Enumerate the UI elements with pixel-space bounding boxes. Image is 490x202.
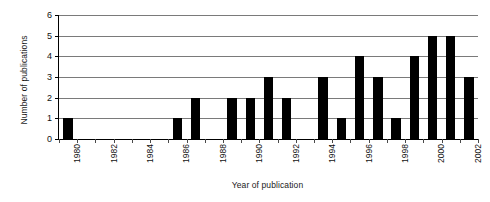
bar (428, 36, 437, 139)
plot-area (58, 15, 478, 140)
x-tick-mark (114, 139, 115, 143)
x-tick-mark (59, 139, 60, 143)
x-tick-label: 1990 (254, 144, 264, 174)
bar (318, 77, 327, 139)
x-axis-tick-labels: 1980198219841986198819901992199419961998… (58, 144, 477, 176)
x-tick-mark (442, 139, 443, 143)
x-tick-mark (478, 139, 479, 143)
y-tick-label: 4 (38, 52, 52, 60)
x-tick-mark (423, 139, 424, 143)
bar (391, 118, 400, 139)
x-tick-mark (95, 139, 96, 143)
x-tick-mark (460, 139, 461, 143)
x-tick-label: 1988 (218, 144, 228, 174)
x-axis-title: Year of publication (58, 180, 477, 190)
x-tick-label: 2002 (473, 144, 483, 174)
y-tick-label: 3 (38, 73, 52, 81)
x-tick-label: 1994 (327, 144, 337, 174)
y-tick-label: 2 (38, 94, 52, 102)
bar (227, 98, 236, 139)
y-tick-label: 0 (38, 135, 52, 143)
x-tick-mark (77, 139, 78, 143)
bar (410, 56, 419, 139)
bar (264, 77, 273, 139)
y-tick-label: 5 (38, 32, 52, 40)
x-tick-mark (150, 139, 151, 143)
x-tick-mark (168, 139, 169, 143)
x-tick-mark (187, 139, 188, 143)
x-tick-mark (132, 139, 133, 143)
x-tick-mark (332, 139, 333, 143)
x-tick-mark (205, 139, 206, 143)
x-tick-mark (314, 139, 315, 143)
x-tick-mark (296, 139, 297, 143)
x-tick-label: 1996 (364, 144, 374, 174)
x-tick-mark (223, 139, 224, 143)
x-tick-mark (259, 139, 260, 143)
x-tick-label: 2000 (436, 144, 446, 174)
x-tick-mark (241, 139, 242, 143)
bars-group (59, 15, 478, 139)
bar (191, 98, 200, 139)
bar (173, 118, 182, 139)
x-tick-label: 1984 (145, 144, 155, 174)
bar (282, 98, 291, 139)
bar (373, 77, 382, 139)
x-tick-mark (350, 139, 351, 143)
x-tick-label: 1986 (181, 144, 191, 174)
x-tick-label: 1980 (72, 144, 82, 174)
bar (246, 98, 255, 139)
bar (355, 56, 364, 139)
x-tick-mark (278, 139, 279, 143)
x-tick-mark (387, 139, 388, 143)
x-tick-mark (369, 139, 370, 143)
y-axis-tick-labels: 0123456 (30, 0, 52, 202)
x-tick-mark (405, 139, 406, 143)
publications-bar-chart: Number of publications 0123456 198019821… (0, 0, 490, 202)
bar (337, 118, 346, 139)
bar (464, 77, 473, 139)
bar (446, 36, 455, 139)
y-tick-label: 6 (38, 11, 52, 19)
y-tick-label: 1 (38, 114, 52, 122)
x-tick-label: 1992 (291, 144, 301, 174)
x-tick-label: 1982 (109, 144, 119, 174)
x-tick-label: 1998 (400, 144, 410, 174)
bar (63, 118, 72, 139)
